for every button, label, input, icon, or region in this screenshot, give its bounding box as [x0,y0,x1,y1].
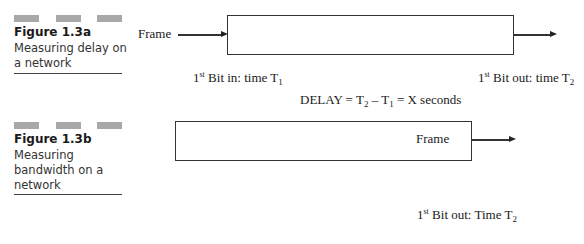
figure-a-title: Figure 1.3a [14,25,91,39]
link-box [227,15,514,55]
decorative-bar [97,15,122,22]
figure-b-caption-line3: network [14,178,129,193]
figure-b-title: Figure 1.3b [14,132,92,146]
first-bit-in-label: 1st Bit in: time T1 [193,70,283,87]
figure-b-caption-line1: Measuring [14,148,129,163]
delay-formula: DELAY = T2 – T1 = X seconds [300,92,461,109]
frame-input-label: Frame [138,26,171,42]
input-arrow-line [178,34,222,36]
first-bit-out-label: 1st Bit out: Time T2 [417,207,517,224]
output-arrow-line [514,34,551,36]
decorative-bar [14,122,39,129]
first-bit-out-label: 1st Bit out: time T2 [478,70,574,87]
decorative-bar [14,15,39,22]
frame-label: Frame [416,131,449,147]
decorative-bar [56,15,81,22]
figure-a-caption-line1: Measuring delay on [14,41,129,56]
figure-a-caption-line2: a network [14,56,129,71]
figure-b-caption-line2: bandwidth on a [14,163,129,178]
arrowhead-icon [509,136,516,142]
output-arrow-line [472,139,510,141]
decorative-bar [56,122,81,129]
arrowhead-icon [550,31,557,37]
decorative-bar [97,122,122,129]
caption-rule [14,73,122,74]
caption-rule [14,194,122,195]
